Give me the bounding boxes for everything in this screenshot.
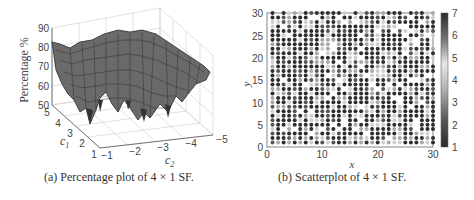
- scatter-point: [387, 38, 391, 42]
- scatter-point: [343, 100, 347, 104]
- scatter-point: [348, 141, 352, 145]
- scatter-point: [376, 114, 380, 118]
- scatter-point: [359, 100, 363, 104]
- scatter-point: [403, 38, 407, 42]
- scatter-point: [276, 24, 280, 28]
- scatter-point: [271, 74, 275, 78]
- scatter-point: [337, 83, 341, 87]
- scatter-point: [370, 56, 374, 60]
- scatter-point: [276, 29, 280, 33]
- scatter-point: [387, 127, 391, 131]
- scatter-point: [309, 74, 313, 78]
- scatter-point: [398, 78, 402, 82]
- y-tick: 5: [257, 120, 263, 131]
- scatter-point: [409, 42, 413, 46]
- scatter-point: [343, 56, 347, 60]
- scatter-point: [287, 74, 291, 78]
- c1-tick: 5: [44, 107, 50, 118]
- scatter-point: [326, 20, 330, 24]
- scatter-point: [354, 51, 358, 55]
- scatter-point: [293, 47, 297, 51]
- scatter-point: [320, 118, 324, 122]
- scatter-point: [381, 20, 385, 24]
- scatter-point: [365, 87, 369, 91]
- scatter-point: [287, 100, 291, 104]
- scatter-point: [326, 78, 330, 82]
- scatter-point: [320, 123, 324, 127]
- scatter-point: [376, 65, 380, 69]
- scatter-point: [304, 127, 308, 131]
- scatter-point: [282, 132, 286, 136]
- scatter-point: [320, 100, 324, 104]
- scatter-point: [381, 136, 385, 140]
- scatter-point: [293, 100, 297, 104]
- scatter-point: [354, 33, 358, 37]
- scatter-point: [326, 69, 330, 73]
- scatter-point: [320, 96, 324, 100]
- scatter-point: [381, 47, 385, 51]
- scatter-point: [376, 105, 380, 109]
- scatter-point: [326, 42, 330, 46]
- scatter-point: [426, 16, 430, 20]
- scatter-point: [298, 96, 302, 100]
- scatter-point: [331, 16, 335, 20]
- scatter-point: [293, 96, 297, 100]
- scatter-point: [420, 91, 424, 95]
- scatter-point: [431, 91, 435, 95]
- scatter-point: [370, 60, 374, 64]
- scatter-point: [287, 105, 291, 109]
- scatter-point: [420, 60, 424, 64]
- scatter-point: [392, 60, 396, 64]
- scatter-point: [365, 109, 369, 113]
- scatter-point: [392, 118, 396, 122]
- scatter-point: [370, 100, 374, 104]
- scatter-point: [381, 29, 385, 33]
- scatter-point: [271, 100, 275, 104]
- scatter-point: [331, 105, 335, 109]
- scatter-point: [403, 78, 407, 82]
- scatter-point: [392, 123, 396, 127]
- scatter-point: [359, 132, 363, 136]
- scatter-point: [354, 24, 358, 28]
- scatter-point: [304, 91, 308, 95]
- scatter-point: [343, 78, 347, 82]
- scatter-point: [381, 105, 385, 109]
- scatter-point: [331, 118, 335, 122]
- scatter-point: [298, 33, 302, 37]
- scatter-point: [392, 47, 396, 51]
- scatter-point: [304, 60, 308, 64]
- scatter-point: [420, 69, 424, 73]
- scatter-point: [398, 33, 402, 37]
- scatter-point: [315, 51, 319, 55]
- scatter-point: [271, 91, 275, 95]
- scatter-point: [426, 83, 430, 87]
- scatter-point: [403, 87, 407, 91]
- scatter-point: [403, 100, 407, 104]
- scatter-point: [309, 65, 313, 69]
- scatter-point: [403, 69, 407, 73]
- scatter-point: [337, 74, 341, 78]
- scatter-point: [282, 74, 286, 78]
- scatter-point: [276, 74, 280, 78]
- scatter-point: [403, 109, 407, 113]
- scatter-point: [309, 91, 313, 95]
- scatter-point: [309, 29, 313, 33]
- scatter-point: [348, 114, 352, 118]
- scatter-point: [276, 96, 280, 100]
- scatter-point: [398, 29, 402, 33]
- scatter-point: [293, 11, 297, 15]
- scatter-point: [370, 74, 374, 78]
- scatter-point: [293, 51, 297, 55]
- scatter-point: [337, 123, 341, 127]
- scatter-point: [420, 74, 424, 78]
- scatter-point: [381, 16, 385, 20]
- scatter-point: [304, 114, 308, 118]
- scatter-point: [398, 87, 402, 91]
- scatter-point: [370, 141, 374, 145]
- y-axis-label: y: [240, 81, 252, 87]
- scatter-point: [315, 33, 319, 37]
- scatter-point: [271, 20, 275, 24]
- scatter-point: [387, 69, 391, 73]
- scatter-point: [271, 69, 275, 73]
- scatter-point: [304, 16, 308, 20]
